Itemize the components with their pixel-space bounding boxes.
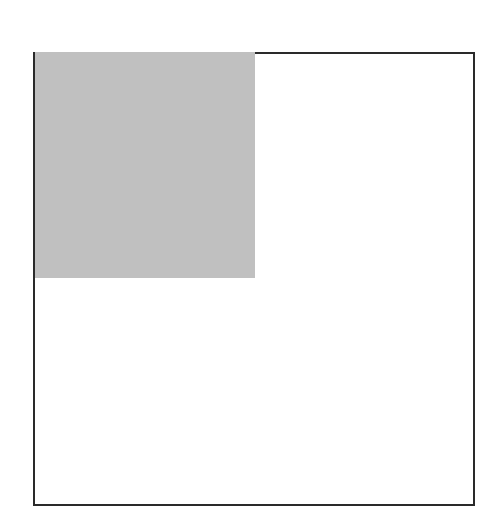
shaded-quadrant [35,52,255,278]
